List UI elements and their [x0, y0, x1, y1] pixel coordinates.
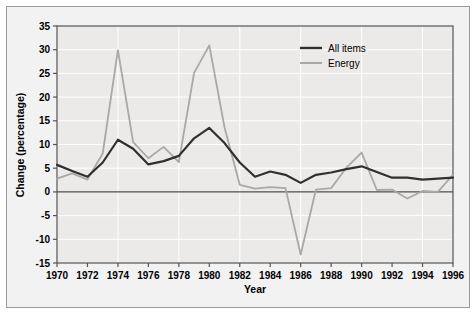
x-axis: 1970197219741976197819801982198419861988…	[46, 263, 465, 281]
legend-label-all-items: All items	[328, 43, 366, 54]
x-tick-label: 1972	[76, 270, 99, 281]
y-tick-label: -10	[36, 234, 51, 245]
x-tick-label: 1988	[320, 270, 343, 281]
y-tick-label: 20	[39, 92, 51, 103]
y-axis: 35302520151050-5-10-15	[36, 21, 57, 269]
y-tick-label: 35	[39, 21, 51, 32]
x-tick-label: 1976	[137, 270, 160, 281]
y-tick-label: 10	[39, 139, 51, 150]
x-tick-label: 1994	[411, 270, 434, 281]
y-tick-label: 5	[44, 163, 50, 174]
legend-label-energy: Energy	[328, 58, 360, 69]
x-tick-label: 1986	[290, 270, 313, 281]
y-tick-label: 25	[39, 68, 51, 79]
y-tick-label: 30	[39, 44, 51, 55]
y-axis-title: Change (percentage)	[14, 93, 26, 197]
x-tick-label: 1970	[46, 270, 69, 281]
y-tick-label: 15	[39, 115, 51, 126]
x-axis-title: Year	[244, 283, 266, 295]
x-tick-label: 1978	[168, 270, 191, 281]
chart-figure: 35302520151050-5-10-15 19701972197419761…	[0, 0, 476, 314]
x-tick-label: 1984	[259, 270, 282, 281]
x-tick-label: 1980	[198, 270, 221, 281]
x-tick-label: 1982	[229, 270, 252, 281]
x-tick-label: 1992	[381, 270, 404, 281]
y-tick-label: -5	[41, 210, 50, 221]
x-tick-label: 1974	[107, 270, 130, 281]
x-tick-label: 1990	[350, 270, 373, 281]
x-tick-label: 1996	[442, 270, 465, 281]
y-tick-label: -15	[36, 258, 51, 269]
y-tick-label: 0	[44, 186, 50, 197]
line-chart: 35302520151050-5-10-15 19701972197419761…	[0, 0, 476, 314]
